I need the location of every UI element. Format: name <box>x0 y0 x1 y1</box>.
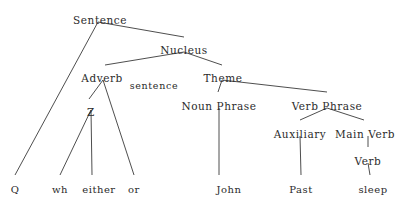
tree-node-auxiliary: Auxiliary <box>274 128 327 140</box>
tree-node-sleep: sleep <box>358 184 387 196</box>
syntax-tree-diagram: SentenceNucleusAdverbsentenceThemeZNoun … <box>0 0 403 205</box>
tree-node-z: Z <box>87 106 95 118</box>
tree-node-theme: Theme <box>204 72 243 84</box>
tree-node-sentence: Sentence <box>73 14 127 26</box>
tree-node-either: either <box>82 184 115 196</box>
tree-node-q: Q <box>11 184 20 196</box>
tree-node-main_verb: Main Verb <box>335 128 395 140</box>
tree-node-verb_phrase: Verb Phrase <box>292 100 363 112</box>
tree-node-or: or <box>128 184 140 196</box>
tree-node-john: John <box>217 184 242 196</box>
tree-node-wh: wh <box>52 184 68 196</box>
tree-edge-auxiliary-to-past <box>300 136 301 175</box>
tree-node-sentence_sub: sentence <box>130 80 179 92</box>
tree-node-noun_phrase: Noun Phrase <box>181 100 256 112</box>
tree-edge-sentence-to-q <box>15 22 98 175</box>
tree-edge-adverb-to-or <box>103 80 134 175</box>
tree-node-adverb: Adverb <box>81 72 123 84</box>
tree-node-past: Past <box>289 184 312 196</box>
tree-node-nucleus: Nucleus <box>160 44 207 56</box>
tree-node-verb: Verb <box>355 155 382 167</box>
tree-edge-z-to-wh <box>60 110 91 175</box>
tree-edge-z-to-either <box>91 110 92 175</box>
